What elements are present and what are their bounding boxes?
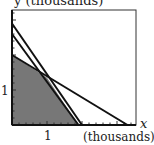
y-axis-label: y (thousands) [13,0,103,8]
feasible-region-chart: y (thousands) x (thousands) 1 1 [0,0,154,145]
x-tick-label-1: 1 [44,129,52,143]
x-axis-label: x [140,116,148,131]
x-axis-unit: (thousands) [83,130,154,144]
y-tick-label-1: 1 [1,84,9,98]
